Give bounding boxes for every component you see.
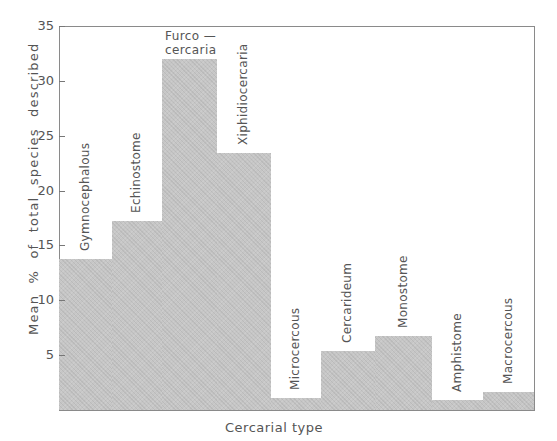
bar-label: Xiphidiocercaria: [236, 44, 250, 145]
y-tick: [59, 136, 65, 137]
bar-macrocercous: [483, 392, 534, 410]
y-axis-label: Mean % of total species described: [26, 43, 41, 335]
y-tick: [59, 300, 65, 301]
bar-xiphidiocercaria: [217, 153, 271, 410]
bar-amphistome: [432, 400, 483, 410]
bar-gymnocephalous: [59, 259, 112, 410]
bar-label: Echinostome: [129, 133, 143, 214]
y-tick: [59, 26, 65, 27]
bar-furcocercaria: [162, 59, 217, 410]
bar-label: Gymnocephalous: [78, 142, 92, 250]
y-tick: [59, 191, 65, 192]
y-tick-label: 35: [24, 18, 54, 33]
x-axis-label: Cercarial type: [225, 420, 323, 435]
y-tick: [59, 355, 65, 356]
bar-label: Microcercous: [288, 308, 302, 390]
y-tick: [59, 245, 65, 246]
bar-monostome: [375, 336, 432, 410]
y-tick-label: 5: [24, 347, 54, 362]
bar-echinostome: [112, 221, 162, 410]
bar-chart: 5101520253035 GymnocephalousEchinostomeF…: [0, 0, 557, 441]
bar-label: Amphistome: [450, 313, 464, 392]
bar-microcercous: [271, 398, 321, 410]
bar-cercarideum: [321, 351, 375, 410]
bar-label: Macrocercous: [501, 298, 515, 384]
y-tick: [59, 81, 65, 82]
bar-label: Furco — cercaria: [165, 29, 216, 57]
bar-label: Monostome: [396, 256, 410, 329]
bar-label: Cercarideum: [340, 263, 354, 343]
